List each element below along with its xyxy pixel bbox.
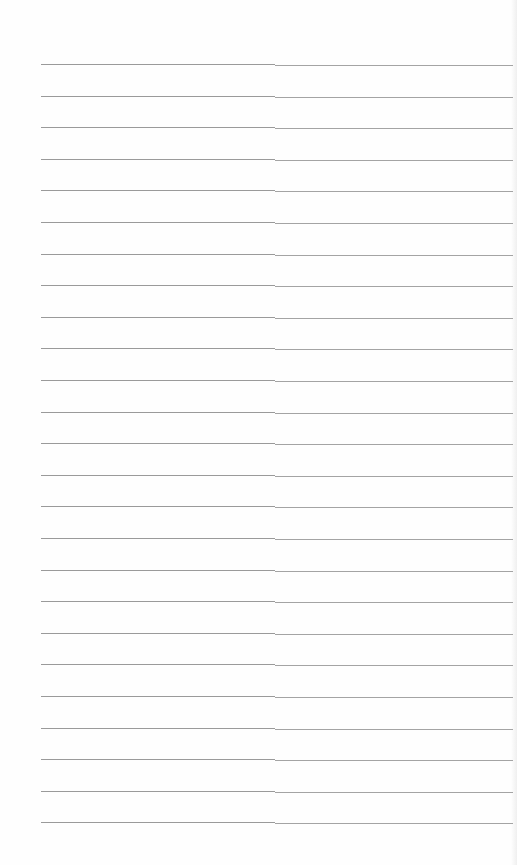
ruled-line: [41, 190, 513, 191]
page-edge-shadow: [511, 0, 517, 865]
ruled-line: [41, 664, 513, 665]
ruled-line: [41, 348, 513, 349]
ruled-line: [41, 759, 513, 760]
ruled-line: [41, 791, 513, 792]
ruled-line: [41, 443, 513, 444]
ruled-line: [41, 96, 513, 97]
ruled-line: [41, 696, 513, 697]
ruled-line: [41, 728, 513, 729]
ruled-line: [41, 822, 513, 823]
ruled-line: [41, 475, 513, 476]
ruled-line: [41, 412, 513, 413]
ruled-line: [41, 64, 513, 65]
ruled-line: [41, 317, 513, 318]
ruled-line: [41, 506, 513, 507]
ruled-line: [41, 254, 513, 255]
ruled-line: [41, 570, 513, 571]
ruled-line: [41, 285, 513, 286]
ruled-line: [41, 222, 513, 223]
ruled-line: [41, 601, 513, 602]
ruled-line: [41, 159, 513, 160]
ruled-line: [41, 633, 513, 634]
ruled-line: [41, 538, 513, 539]
ruled-line: [41, 127, 513, 128]
ruled-line: [41, 380, 513, 381]
lined-paper-page: [0, 0, 517, 865]
